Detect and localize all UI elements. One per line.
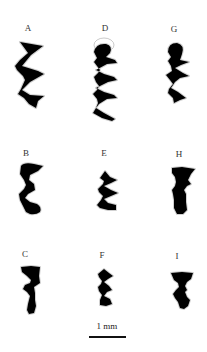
panel-label-c: C (22, 250, 28, 259)
silhouette-shapes (0, 0, 207, 352)
panel-label-d: D (102, 24, 109, 33)
shape-c (21, 266, 40, 314)
panel-label-f: F (99, 251, 104, 260)
panel-label-h: H (176, 150, 183, 159)
shape-b (19, 163, 43, 214)
shape-d (93, 38, 117, 121)
shape-i (171, 272, 193, 309)
shape-e (97, 171, 118, 210)
figure: A D G B E H C F I 1 mm (0, 0, 207, 352)
shape-g (166, 43, 189, 103)
shape-f (98, 269, 113, 306)
shape-h (172, 167, 195, 214)
panel-label-a: A (25, 24, 32, 33)
scale-bar (89, 336, 126, 338)
panel-label-b: B (23, 149, 29, 158)
scale-bar-label: 1 mm (97, 322, 118, 331)
panel-label-i: I (176, 252, 179, 261)
shape-a (15, 42, 44, 108)
panel-label-g: G (171, 25, 178, 34)
panel-label-e: E (101, 149, 107, 158)
